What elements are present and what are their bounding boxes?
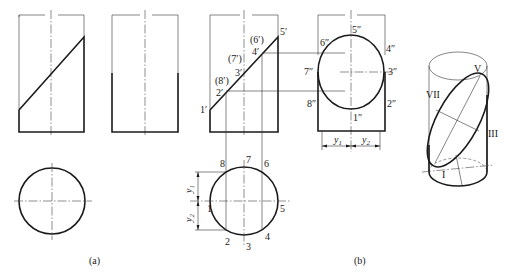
svg-text:(8′): (8′): [215, 75, 229, 87]
svg-text:3: 3: [246, 241, 251, 252]
svg-text:I: I: [442, 169, 445, 180]
svg-text:6″: 6″: [320, 37, 329, 48]
svg-text:VII: VII: [426, 89, 440, 100]
svg-text:6: 6: [264, 158, 269, 169]
svg-text:III: III: [488, 128, 498, 139]
caption-b: (b): [354, 255, 366, 267]
svg-text:3′: 3′: [235, 67, 242, 78]
isometric-view: V VII III I: [415, 52, 501, 186]
side-view-a: [112, 10, 178, 137]
figure-a: (a): [14, 10, 178, 267]
svg-text:5: 5: [280, 203, 285, 214]
dim-y2-top: y2: [183, 214, 196, 223]
svg-text:4: 4: [265, 231, 270, 242]
top-view-b: y1 y2: [183, 160, 290, 245]
svg-text:7: 7: [246, 154, 251, 165]
figure-b: 1′ 2′ (8′) 3′ (7′) 4′ (6′) 5′: [183, 10, 397, 267]
svg-text:V: V: [474, 63, 482, 74]
svg-text:4′: 4′: [252, 46, 259, 57]
dim-y1: y1: [333, 134, 342, 147]
svg-text:2″: 2″: [387, 98, 396, 109]
svg-text:1″: 1″: [353, 112, 362, 123]
svg-text:2: 2: [225, 236, 230, 247]
svg-text:8: 8: [220, 158, 225, 169]
svg-text:4″: 4″: [386, 43, 395, 54]
svg-text:(7′): (7′): [228, 53, 242, 65]
top-view-a: [14, 163, 92, 240]
top-view-labels: 1 2 3 4 5 6 7 8: [207, 154, 285, 252]
svg-text:2′: 2′: [216, 87, 223, 98]
front-view-labels: 1′ 2′ (8′) 3′ (7′) 4′ (6′) 5′: [200, 26, 287, 115]
front-view-a: [19, 10, 84, 137]
svg-text:5″: 5″: [352, 24, 361, 35]
svg-text:3″: 3″: [388, 66, 397, 77]
svg-text:8″: 8″: [307, 98, 316, 109]
svg-text:5′: 5′: [280, 26, 287, 37]
svg-text:1′: 1′: [200, 104, 207, 115]
svg-text:(6′): (6′): [250, 34, 264, 46]
dim-y2: y2: [361, 134, 370, 147]
caption-a: (a): [89, 255, 100, 267]
svg-text:1: 1: [207, 203, 212, 214]
dim-y1-top: y1: [183, 185, 196, 194]
cylinder-section-drawing: (a) 1′ 2′ (8′) 3′ (7′) 4′ (6′) 5′: [0, 0, 506, 279]
svg-text:7″: 7″: [304, 66, 313, 77]
